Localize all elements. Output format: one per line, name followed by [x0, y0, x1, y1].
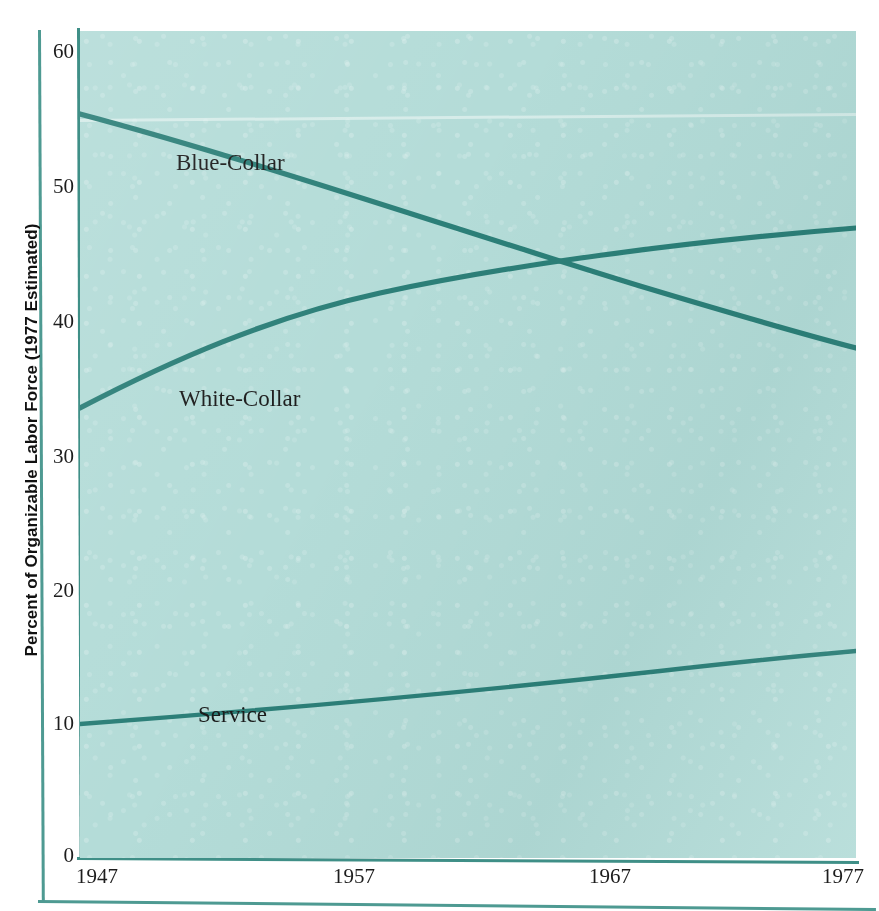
series-line-blue-collar — [80, 114, 856, 348]
y-tick-0: 0 — [28, 845, 74, 866]
x-axis-line — [77, 857, 859, 864]
y-tick-20: 20 — [28, 580, 74, 601]
y-tick-10: 10 — [28, 713, 74, 734]
x-tick-1957: 1957 — [333, 866, 375, 887]
y-tick-50: 50 — [28, 176, 74, 197]
paper-streak-artifact — [80, 113, 856, 122]
series-line-service — [80, 651, 856, 724]
plot-area: Blue-Collar White-Collar Service — [80, 31, 856, 858]
series-lines-svg — [80, 31, 856, 858]
series-label-white-collar: White-Collar — [179, 387, 300, 410]
y-axis-tick-labels: 60 50 40 30 20 10 0 — [18, 0, 74, 898]
x-tick-1977: 1977 — [822, 866, 864, 887]
x-tick-1967: 1967 — [589, 866, 631, 887]
y-tick-40: 40 — [28, 311, 74, 332]
series-label-blue-collar: Blue-Collar — [176, 151, 285, 174]
series-line-white-collar — [80, 228, 856, 408]
y-tick-30: 30 — [28, 446, 74, 467]
series-label-service: Service — [198, 703, 267, 726]
x-axis-tick-labels: 1947 1957 1967 1977 — [0, 866, 879, 900]
frame-bottom-rule — [38, 900, 876, 911]
y-tick-60: 60 — [28, 41, 74, 62]
x-tick-1947: 1947 — [76, 866, 118, 887]
